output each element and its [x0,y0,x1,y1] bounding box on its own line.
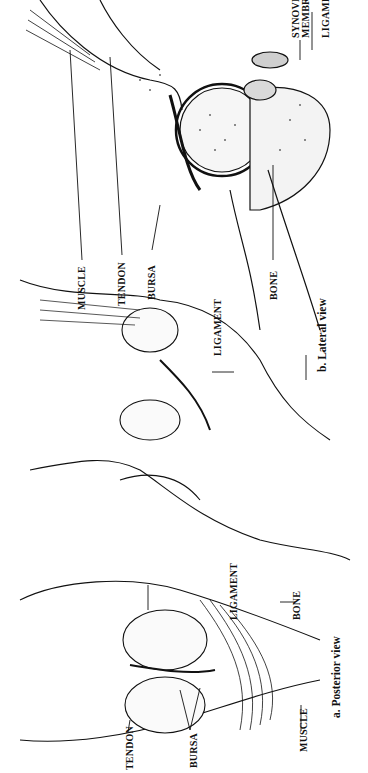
label-lateral-ligament-top: LIGAMENT [320,0,331,38]
label-lateral-bursa: BURSA [146,265,157,300]
lateral-view-sectional-drawing [26,0,330,330]
label-synovial-membrane-line2: MEMBRANE [300,0,311,38]
label-lateral-muscle: MUSCLE [76,266,87,310]
label-posterior-tendon: TENDON [124,726,135,770]
label-posterior-bursa: BURSA [188,733,199,768]
caption-posterior-view: a. Posterior view [330,636,342,718]
label-posterior-bone: BONE [291,591,302,620]
label-lateral-ligament: LIGAMENT [212,299,223,356]
posterior-view-drawing [20,581,320,741]
label-lateral-tendon: TENDON [116,262,127,306]
label-posterior-muscle: MUSCLE [298,708,309,752]
caption-lateral-view: b. Lateral view [316,298,328,372]
label-lateral-bone: BONE [268,271,279,300]
lateral-view-external-drawing [20,280,350,560]
anatomy-figure: MUSCLE TENDON BURSA LIGAMENT BONE SYNOVI… [0,0,368,773]
knee-illustration [0,0,368,773]
label-posterior-ligament: LIGAMENT [228,563,239,620]
